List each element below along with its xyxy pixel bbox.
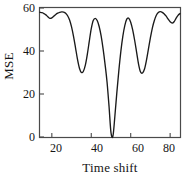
chart-figure: MSE 60 40 20 0 20 40 60 80 Time shift bbox=[0, 0, 187, 182]
plot-area bbox=[0, 0, 187, 182]
data-line-mse bbox=[40, 12, 180, 138]
y-tick-marks bbox=[40, 8, 44, 137]
